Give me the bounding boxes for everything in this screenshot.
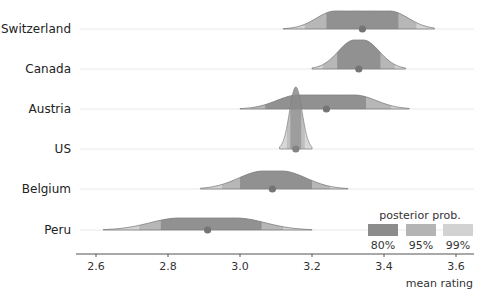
mean-point-canada xyxy=(355,65,362,72)
x-tick-label: 2.6 xyxy=(87,260,105,273)
mean-point-switzerland xyxy=(359,25,366,32)
legend-label-99: 99% xyxy=(446,239,470,252)
mean-point-austria xyxy=(323,105,330,112)
legend: posterior prob. 80%95%99% xyxy=(368,209,473,252)
x-tick-label: 3.2 xyxy=(303,260,321,273)
legend-label-80: 80% xyxy=(371,239,395,252)
ridge-austria xyxy=(240,95,409,113)
x-tick-label: 3.0 xyxy=(231,260,249,273)
legend-swatch-95 xyxy=(406,224,436,236)
x-tick-label: 3.4 xyxy=(375,260,393,273)
x-tick-label: 3.6 xyxy=(447,260,465,273)
mean-point-us xyxy=(292,145,299,152)
row-baselines xyxy=(80,29,474,230)
ridge-belgium xyxy=(200,171,348,193)
legend-label-95: 95% xyxy=(409,239,433,252)
country-label-peru: Peru xyxy=(44,223,71,237)
legend-title: posterior prob. xyxy=(379,209,460,222)
legend-swatch-99 xyxy=(443,224,473,236)
mean-point-peru xyxy=(204,226,211,233)
country-label-switzerland: Switzerland xyxy=(1,22,71,36)
country-label-canada: Canada xyxy=(25,62,71,76)
x-axis-title: mean rating xyxy=(406,277,473,290)
country-labels: SwitzerlandCanadaAustriaUSBelgiumPeru xyxy=(1,22,71,237)
ridge-canada xyxy=(312,40,406,73)
legend-swatch-80 xyxy=(368,224,398,236)
country-label-belgium: Belgium xyxy=(22,182,71,196)
ridge-switzerland xyxy=(283,11,434,33)
density-ridges xyxy=(103,11,434,234)
ridgeline-chart: SwitzerlandCanadaAustriaUSBelgiumPeru 2.… xyxy=(0,0,487,303)
country-label-austria: Austria xyxy=(29,102,71,116)
x-tick-label: 2.8 xyxy=(159,260,177,273)
ridge-peru xyxy=(103,218,312,234)
mean-point-belgium xyxy=(269,185,276,192)
x-axis: 2.62.83.03.23.43.6 xyxy=(76,254,474,273)
country-label-us: US xyxy=(55,142,71,156)
